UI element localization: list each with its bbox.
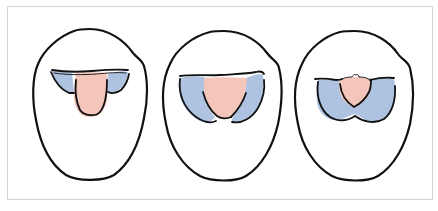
panel-2-top-edge bbox=[180, 72, 264, 76]
panel-1-top-edge bbox=[52, 70, 128, 72]
diagram-canvas bbox=[0, 0, 438, 211]
panel-1 bbox=[33, 29, 147, 180]
panel-1-blue-right bbox=[107, 71, 128, 92]
panel-3 bbox=[295, 31, 413, 181]
panel-3-top-edge-left bbox=[315, 79, 342, 80]
panel-1-pink-center bbox=[74, 72, 108, 117]
panel-2 bbox=[163, 31, 282, 181]
